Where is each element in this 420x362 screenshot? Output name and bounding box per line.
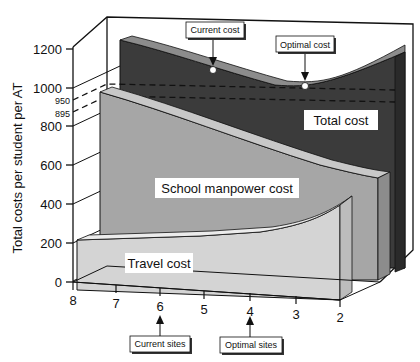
- current-cost-point: [210, 67, 217, 74]
- y-axis-title: Total costs per student per AT: [10, 82, 25, 253]
- y-axis: [66, 47, 73, 282]
- y-tick-labels: 0 200 400 600 800 1000 1200 950 895: [33, 42, 70, 290]
- cost-chart: 0 200 400 600 800 1000 1200 950 895 Tota…: [0, 0, 420, 362]
- current-sites-callout: Current sites: [130, 315, 192, 354]
- current-sites-text: Current sites: [134, 339, 186, 349]
- y-tick-1200: 1200: [33, 42, 62, 57]
- chart-canvas: 0 200 400 600 800 1000 1200 950 895 Tota…: [0, 0, 420, 362]
- y-tick-950: 950: [55, 96, 70, 106]
- x-tick-8: 8: [69, 293, 76, 308]
- x-tick-6: 6: [156, 299, 163, 314]
- optimal-sites-text: Optimal sites: [225, 340, 278, 350]
- y-tick-600: 600: [40, 158, 62, 173]
- y-tick-400: 400: [40, 197, 62, 212]
- optimal-cost-point: [302, 83, 309, 90]
- optimal-sites-callout: Optimal sites: [220, 316, 284, 355]
- y-tick-0: 0: [55, 275, 62, 290]
- x-tick-2: 2: [336, 310, 343, 325]
- x-tick-5: 5: [200, 302, 207, 317]
- current-cost-callout: Current cost: [186, 22, 246, 40]
- school-manpower-label: School manpower cost: [161, 181, 293, 196]
- x-tick-3: 3: [292, 307, 299, 322]
- y-tick-895: 895: [55, 109, 70, 119]
- optimal-cost-callout: Optimal cost: [276, 36, 336, 54]
- x-tick-7: 7: [112, 296, 119, 311]
- y-tick-200: 200: [40, 236, 62, 251]
- current-cost-text: Current cost: [190, 25, 240, 35]
- total-cost-label: Total cost: [314, 113, 369, 128]
- optimal-cost-text: Optimal cost: [280, 40, 331, 50]
- y-tick-800: 800: [40, 119, 62, 134]
- y-tick-1000: 1000: [33, 81, 62, 96]
- travel-cost-label: Travel cost: [127, 256, 190, 271]
